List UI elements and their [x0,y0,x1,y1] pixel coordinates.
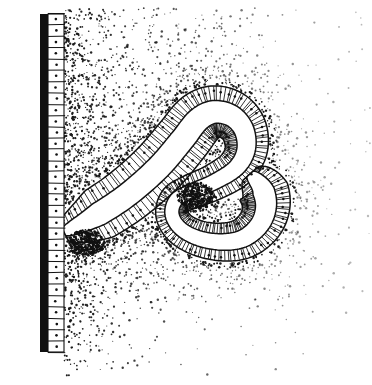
figure-panel: B [0,0,372,385]
basement-membrane-band [40,14,48,352]
surface-epithelial-wall [40,13,65,352]
histology-line-drawing [0,0,372,385]
